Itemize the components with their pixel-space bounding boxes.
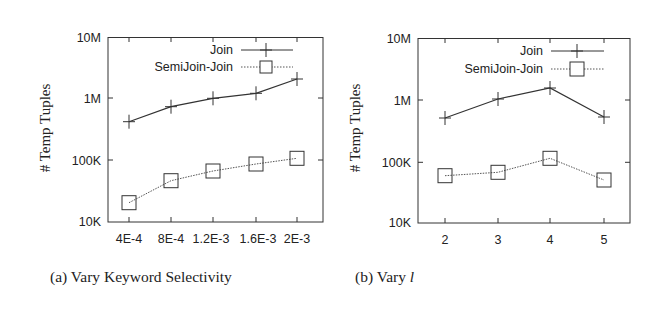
chart-b-series-semijoin [438,151,611,187]
chart-a-series-join [123,72,303,129]
chart-a-series-semijoin [122,151,304,209]
caption-b: (b) Vary l [355,268,414,286]
chart-b-ytick-10k: 10K [389,216,412,230]
plus-marker-icon [571,44,583,58]
chart-a-xtick-4: 1.6E-3 [240,232,277,246]
chart-a-xtick-2: 8E-4 [158,232,184,246]
chart-b-ytick-100k: 100K [382,156,412,170]
figure-svg: # Temp Tuples 10M 1M 100K 10K 4E-4 8E-4 [0,0,664,311]
chart-b-legend: Join SemiJoin-Join [464,44,604,76]
chart-b-xtick-3: 3 [495,233,502,247]
chart-b-xtick-5: 5 [601,233,608,247]
chart-a-xtick-3: 1.2E-3 [193,232,230,246]
chart-b-legend-semijoin-label: SemiJoin-Join [464,62,543,76]
plus-marker-icon [260,43,272,57]
chart-a-ytick-10k: 10K [79,215,102,229]
chart-a-legend-semijoin-label: SemiJoin-Join [154,60,233,74]
caption-b-variable: l [410,268,414,285]
square-marker-icon [260,61,272,73]
chart-a-ytick-100k: 100K [72,154,102,168]
chart-b-ylabel: # Temp Tuples [347,83,363,172]
chart-b: # Temp Tuples 10M 1M 100K 10K 2 3 4 5 [347,32,630,247]
chart-a-xtick-1: 4E-4 [116,232,142,246]
chart-a-legend: Join SemiJoin-Join [154,43,293,74]
chart-b-series-join [439,81,610,125]
chart-a-xtick-5: 2E-3 [284,232,310,246]
chart-b-legend-join-label: Join [520,44,543,58]
chart-a-legend-join-label: Join [210,43,233,57]
chart-a-ylabel: # Temp Tuples [37,83,53,172]
chart-a: # Temp Tuples 10M 1M 100K 10K 4E-4 8E-4 [37,31,323,246]
square-marker-icon [570,62,584,76]
chart-b-ytick-1m: 1M [394,94,411,108]
figure: # Temp Tuples 10M 1M 100K 10K 4E-4 8E-4 [0,0,664,311]
caption-b-text: (b) Vary [355,268,410,285]
chart-b-ytick-10m: 10M [387,32,411,46]
chart-b-xtick-4: 4 [547,233,554,247]
chart-a-ytick-10m: 10M [77,31,101,45]
chart-a-ytick-1m: 1M [84,92,101,106]
caption-a: (a) Vary Keyword Selectivity [50,268,232,286]
chart-b-xtick-2: 2 [442,233,449,247]
